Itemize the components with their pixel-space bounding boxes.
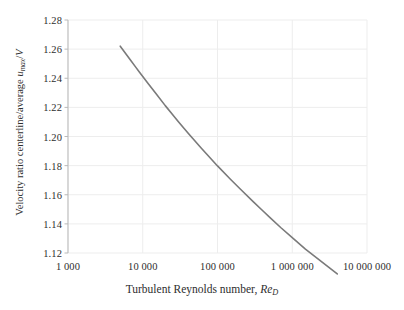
y-tick-label: 1.16: [28, 189, 62, 200]
y-tick-label: 1.12: [28, 248, 62, 259]
x-tick-label: 10 000 000: [343, 261, 391, 272]
y-tick-label: 1.14: [28, 218, 62, 229]
x-tick-label: 100 000: [200, 261, 235, 272]
y-axis-tick-marks: [65, 20, 69, 253]
y-axis-title-container: Velocity ratio centerline/average umax/V: [10, 0, 30, 265]
y-axis-title: Velocity ratio centerline/average umax/V: [13, 49, 26, 215]
y-tick-label: 1.26: [28, 44, 62, 55]
y-tick-label: 1.20: [28, 131, 62, 142]
x-axis-title: Turbulent Reynolds number, ReD: [0, 283, 404, 297]
y-tick-label: 1.22: [28, 102, 62, 113]
x-tick-label: 1 000 000: [271, 261, 314, 272]
y-tick-label: 1.18: [28, 160, 62, 171]
chart-figure: 1.121.141.161.181.201.221.241.261.28 1 0…: [0, 0, 404, 310]
data-series-line: [120, 46, 337, 274]
y-tick-label: 1.28: [28, 15, 62, 26]
y-tick-label: 1.24: [28, 73, 62, 84]
x-tick-label: 10 000: [128, 261, 157, 272]
x-tick-label: 1 000: [56, 261, 80, 272]
